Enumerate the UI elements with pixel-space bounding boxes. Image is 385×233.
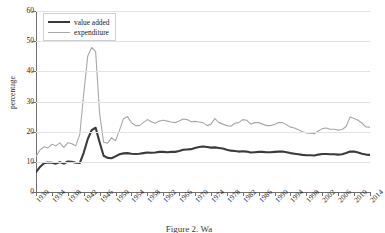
y-tick-label: 10 [0,157,34,166]
y-axis-title: percentage [8,53,17,133]
y-tick-label: 30 [0,97,34,106]
legend: value added expenditure [43,13,116,41]
legend-item-value-added: value added [48,17,110,27]
gridline [36,102,370,103]
y-tick-label: 20 [0,127,34,136]
gridline [36,41,370,42]
legend-label-value-added: value added [74,18,110,27]
gridline [36,162,370,163]
legend-label-expenditure: expenditure [74,28,109,37]
y-tick-label: 60 [0,6,34,15]
gridline [36,11,370,12]
series-line-value-added [36,128,370,172]
gridline [36,132,370,133]
figure-caption: Figure 2. Wa [0,224,378,233]
legend-item-expenditure: expenditure [48,27,110,37]
legend-swatch-value-added [48,21,70,23]
y-tick-label: 40 [0,66,34,75]
y-tick-label: 0 [0,187,34,196]
x-tick-label: 2014 [368,187,385,204]
legend-swatch-expenditure [48,32,70,33]
gridline [36,71,370,72]
y-tick-label: 50 [0,36,34,45]
